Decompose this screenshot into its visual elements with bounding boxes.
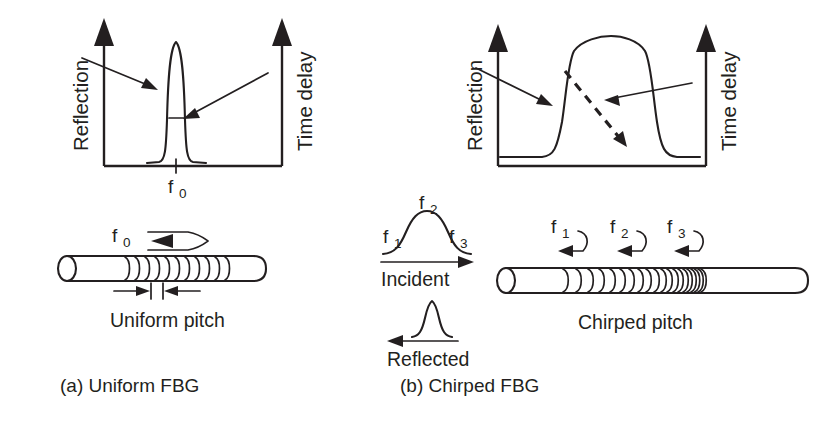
panel-a-reflection-axis bbox=[94, 18, 114, 166]
fiber-f1-label: f bbox=[551, 216, 557, 237]
panel-a-grating-lines bbox=[125, 257, 230, 280]
panel-b-time-delay-dashed bbox=[565, 71, 627, 147]
fiber-f1-sublabel: 1 bbox=[562, 226, 570, 241]
axis-arrow-icon bbox=[488, 24, 508, 52]
panel-a-time-delay-axis bbox=[272, 18, 292, 166]
panel-a-fiber: f 0 Uniform pitch bbox=[58, 225, 266, 331]
panel-b-time-delay-axis-label: Time delay bbox=[717, 51, 740, 151]
panel-b-time-delay-axis bbox=[696, 24, 716, 166]
panel-a-chart: Reflection Time delay f 0 bbox=[69, 18, 316, 201]
panel-b-caption: (b) Chirped FBG bbox=[400, 375, 539, 396]
axis-arrow-icon bbox=[272, 18, 292, 46]
panel-b-reflection-axis-label: Reflection bbox=[463, 60, 486, 151]
panel-a-pitch-indicator bbox=[114, 283, 200, 299]
fiber-f2-sublabel: 2 bbox=[621, 226, 629, 241]
panel-a-reflection-axis-label: Reflection bbox=[69, 60, 92, 151]
panel-b-reflection-band bbox=[500, 36, 700, 157]
panel-a-time-delay-axis-label: Time delay bbox=[293, 51, 316, 151]
panel-a-leader-reflection bbox=[82, 58, 158, 90]
axis-arrow-icon bbox=[94, 18, 114, 46]
fiber-f3-sublabel: 3 bbox=[678, 226, 686, 241]
fiber-f3-label: f bbox=[667, 216, 673, 237]
fiber-f2-label: f bbox=[610, 216, 616, 237]
fiber-left-cap bbox=[497, 268, 515, 293]
panel-b-grating-lines bbox=[563, 269, 706, 292]
panel-a-incident-marker bbox=[148, 232, 208, 250]
reflected-label: Reflected bbox=[387, 348, 469, 370]
incident-f1-sublabel: 1 bbox=[394, 236, 402, 251]
panel-b-chart: Reflection Time delay bbox=[463, 24, 740, 166]
incident-f3-sublabel: 3 bbox=[460, 236, 468, 251]
fbg-diagram-canvas: Reflection Time delay f 0 bbox=[0, 0, 827, 426]
fiber-right-cap bbox=[795, 268, 808, 293]
panel-a-f0-label: f bbox=[168, 176, 174, 197]
panel-b-reflection-axis bbox=[488, 24, 508, 166]
panel-b-incident-signal: f 1 f 2 f 3 Incident bbox=[381, 192, 474, 290]
panel-a-pitch-label: Uniform pitch bbox=[110, 309, 225, 331]
panel-b-leader-time-delay bbox=[604, 83, 692, 106]
panel-b-reflected-signal: Reflected bbox=[387, 301, 469, 370]
panel-a-leader-time-delay bbox=[183, 73, 268, 119]
reflected-arrow-head bbox=[387, 335, 403, 347]
panel-a-reflection-peak bbox=[147, 42, 206, 163]
incident-f2-sublabel: 2 bbox=[430, 202, 438, 217]
fiber-right-cap bbox=[253, 256, 266, 281]
panel-a-caption: (a) Uniform FBG bbox=[60, 375, 199, 396]
incident-f3-label: f bbox=[449, 226, 455, 247]
panel-b-pitch-label: Chirped pitch bbox=[578, 311, 693, 333]
reflected-pulse-shape bbox=[412, 301, 452, 337]
axis-arrow-icon bbox=[696, 24, 716, 52]
incident-label: Incident bbox=[381, 268, 450, 290]
panel-b-leader-reflection bbox=[476, 68, 553, 106]
fiber-left-cap bbox=[58, 256, 76, 281]
incident-f1-label: f bbox=[383, 226, 389, 247]
panel-a-f0-sublabel: 0 bbox=[179, 186, 187, 201]
incident-arrow-head bbox=[458, 256, 474, 268]
fbg-figure: Reflection Time delay f 0 bbox=[0, 0, 827, 426]
panel-b-fiber: f 1 f 2 f 3 Chirped pitch bbox=[497, 216, 808, 333]
panel-a-incident-freq-sublabel: 0 bbox=[123, 235, 131, 250]
panel-a-incident-freq-label: f bbox=[112, 225, 118, 246]
incident-f2-label: f bbox=[419, 192, 425, 213]
